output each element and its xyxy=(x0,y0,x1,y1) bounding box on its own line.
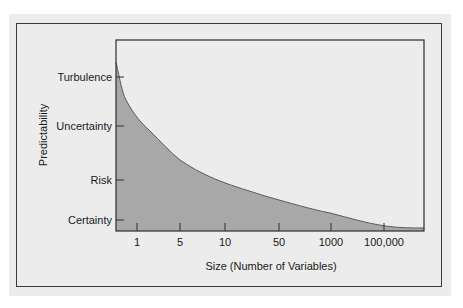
y-label-risk: Risk xyxy=(91,174,113,186)
y-axis-title: Predictability xyxy=(37,103,49,166)
y-label-certainty: Certainty xyxy=(68,214,113,226)
area-fill xyxy=(116,62,424,231)
x-label-50: 50 xyxy=(273,236,285,248)
x-label-5: 5 xyxy=(177,236,183,248)
x-label-1: 1 xyxy=(134,236,140,248)
x-label-10: 10 xyxy=(219,236,231,248)
x-label-1000: 1000 xyxy=(319,236,343,248)
x-label-100000: 100,000 xyxy=(364,236,404,248)
chart-svg: Turbulence Uncertainty Risk Certainty 1 … xyxy=(0,0,463,308)
x-axis-title: Size (Number of Variables) xyxy=(205,260,336,272)
y-label-uncertainty: Uncertainty xyxy=(56,120,112,132)
y-label-turbulence: Turbulence xyxy=(57,71,112,83)
